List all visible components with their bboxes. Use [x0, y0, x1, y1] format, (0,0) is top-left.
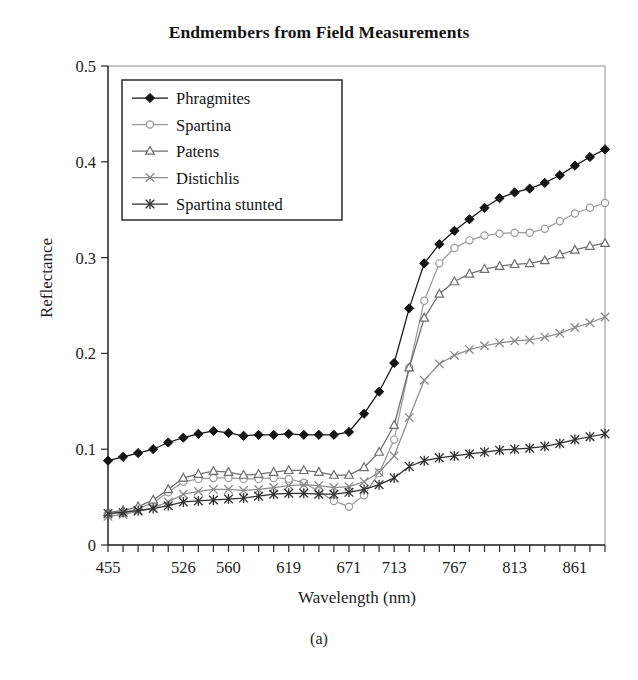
- legend-label: Phragmites: [176, 89, 250, 108]
- svg-text:767: 767: [442, 558, 467, 577]
- x-axis-label: Wavelength (nm): [108, 588, 606, 608]
- series-spartina: [104, 199, 608, 518]
- svg-text:0.4: 0.4: [75, 153, 96, 172]
- svg-text:0.5: 0.5: [75, 57, 96, 76]
- svg-text:560: 560: [216, 558, 241, 577]
- legend-label: Spartina: [176, 116, 232, 135]
- svg-text:813: 813: [502, 558, 527, 577]
- svg-text:0.3: 0.3: [75, 249, 96, 268]
- chart-plot-area: 00.10.20.30.40.5455526560619671713767813…: [0, 0, 638, 680]
- series-spartina-stunted: [104, 429, 610, 519]
- series-distichlis: [104, 313, 609, 521]
- legend-label: Spartina stunted: [176, 195, 284, 214]
- svg-text:671: 671: [337, 558, 362, 577]
- figure-panel: Endmembers from Field Measurements 00.10…: [0, 0, 638, 680]
- legend-label: Distichlis: [176, 169, 239, 188]
- svg-text:0.1: 0.1: [75, 440, 96, 459]
- svg-text:455: 455: [96, 558, 121, 577]
- svg-text:0.2: 0.2: [75, 344, 96, 363]
- svg-text:861: 861: [563, 558, 588, 577]
- svg-text:0: 0: [88, 536, 96, 555]
- svg-text:713: 713: [382, 558, 407, 577]
- y-axis-label: Reflectance: [37, 198, 57, 358]
- svg-text:526: 526: [171, 558, 196, 577]
- legend-label: Patens: [176, 142, 219, 161]
- svg-text:619: 619: [276, 558, 301, 577]
- chart-legend: PhragmitesSpartinaPatensDistichlisSparti…: [122, 80, 342, 220]
- series-patens: [104, 239, 610, 516]
- figure-caption: (a): [0, 630, 638, 648]
